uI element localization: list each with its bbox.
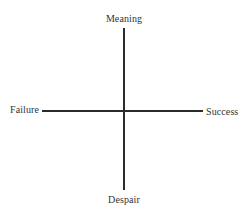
horizontal-axis-line [42,110,203,112]
axis-label-success: Success [206,106,238,118]
meaning-success-axes-diagram: Meaning Despair Failure Success [0,0,245,214]
axis-label-despair: Despair [108,194,140,206]
axis-label-meaning: Meaning [106,13,142,25]
vertical-axis-line [123,28,125,190]
axis-label-failure: Failure [10,104,39,116]
